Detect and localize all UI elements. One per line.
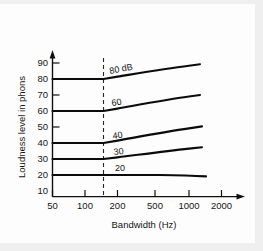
x-tick-label: 100 [77, 200, 93, 211]
y-tick-label: 50 [37, 121, 48, 132]
y-tick-label: 10 [37, 185, 48, 196]
curve-label-60: 60 [111, 97, 122, 108]
x-tick-label: 1000 [178, 200, 199, 211]
y-tick-label: 70 [37, 89, 48, 100]
top-edge-shade [0, 0, 263, 4]
x-tick-label: 2000 [211, 200, 232, 211]
curve-label-40: 40 [112, 130, 123, 141]
bottom-edge-shade [0, 243, 263, 251]
y-tick-label: 20 [37, 169, 48, 180]
right-edge-shade [255, 0, 263, 251]
x-tick-label: 500 [147, 200, 163, 211]
y-tick-label: 40 [37, 137, 48, 148]
curve-label-20: 20 [115, 163, 125, 173]
curve-label-30: 30 [113, 146, 124, 157]
y-axis-title: Loudness level in phons [16, 76, 27, 178]
x-tick-label: 200 [110, 200, 126, 211]
y-tick-label: 60 [37, 105, 48, 116]
y-tick-label: 80 [37, 73, 48, 84]
x-axis-title: Bandwidth (Hz) [112, 219, 177, 230]
loudness-bandwidth-chart: 90 80 70 60 50 40 30 20 10 50 100 200 50… [0, 0, 263, 251]
y-tick-label: 90 [37, 57, 48, 68]
figure-canvas: 90 80 70 60 50 40 30 20 10 50 100 200 50… [0, 0, 263, 251]
y-tick-labels: 90 80 70 60 50 40 30 20 10 [37, 57, 48, 196]
y-tick-label: 30 [37, 153, 48, 164]
x-tick-label: 50 [47, 200, 58, 211]
